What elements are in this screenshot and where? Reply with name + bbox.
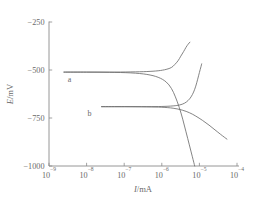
y-axis-title: E/mV xyxy=(5,83,15,105)
curve-b-anodic xyxy=(102,64,202,107)
y-tick-label: −500 xyxy=(28,66,45,75)
axis-ticks xyxy=(49,22,237,166)
x-axis-title: I/mA xyxy=(133,184,153,194)
y-tick-label: −250 xyxy=(28,18,45,27)
x-tick-label: 10−8 xyxy=(80,166,94,179)
curve-a-label: a xyxy=(68,75,72,84)
y-tick-label: −750 xyxy=(28,114,45,123)
x-tick-label: 10−6 xyxy=(155,166,169,179)
polarization-curve-figure: −250−500−750−100010−910−810−710−610−510−… xyxy=(0,0,255,201)
x-tick-label: 10−5 xyxy=(192,166,206,179)
curve-b-cathodic xyxy=(102,107,227,139)
x-tick-label: 10−4 xyxy=(230,166,244,179)
curve-annotations: ab xyxy=(68,75,92,119)
curve-a-cathodic xyxy=(64,72,195,166)
curve-a-anodic xyxy=(64,42,190,72)
x-tick-label: 10−7 xyxy=(117,166,131,179)
chart-canvas: −250−500−750−100010−910−810−710−610−510−… xyxy=(0,0,255,201)
axes xyxy=(49,22,239,167)
curve-b-label: b xyxy=(88,109,92,118)
tick-labels: −250−500−750−100010−910−810−710−610−510−… xyxy=(24,18,245,180)
data-curves xyxy=(64,42,227,166)
